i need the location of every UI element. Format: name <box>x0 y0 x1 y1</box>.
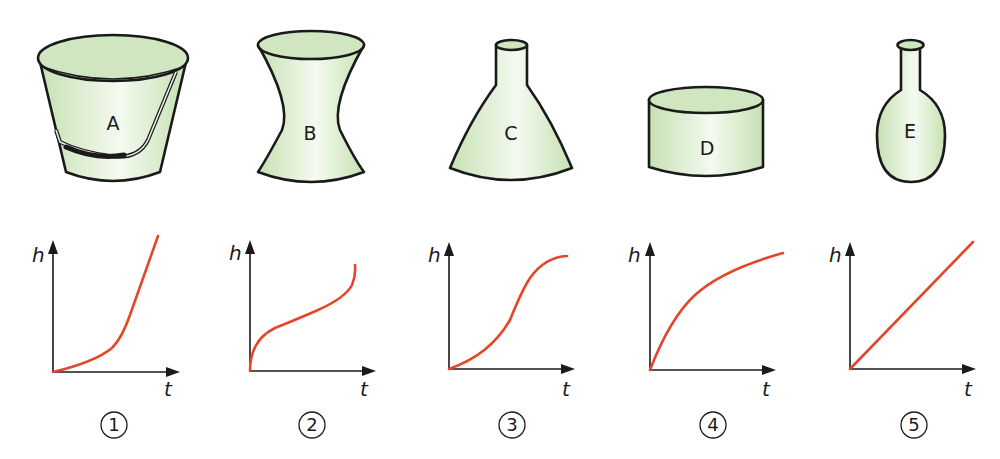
y-axis-arrow-icon <box>845 242 855 256</box>
container-label-a: A <box>107 112 120 134</box>
x-axis-label: t <box>360 377 369 401</box>
y-axis-label: h <box>628 243 641 267</box>
graph-1: h t 1 <box>32 236 180 438</box>
graph-number: 5 <box>908 414 919 435</box>
x-axis-label: t <box>164 377 173 401</box>
x-axis-label: t <box>964 377 973 401</box>
container-b-hourglass: B <box>258 31 364 182</box>
graph-number: 3 <box>506 414 517 435</box>
y-axis-label: h <box>32 243 45 267</box>
graph-3: h t 3 <box>428 242 575 438</box>
x-axis-label: t <box>562 377 571 401</box>
graph-number: 1 <box>108 414 119 435</box>
x-axis-arrow-icon <box>561 364 575 374</box>
graph-number: 2 <box>306 414 317 435</box>
y-axis-label: h <box>428 243 441 267</box>
container-c-conical-flask: C <box>450 40 572 180</box>
x-axis-arrow-icon <box>962 364 976 374</box>
container-label-e: E <box>904 120 916 142</box>
y-axis-arrow-icon <box>444 242 454 256</box>
y-axis-label: h <box>829 243 842 267</box>
graph-4: h t 4 <box>628 242 783 438</box>
container-e-round-flask: E <box>877 40 945 182</box>
y-axis-arrow-icon <box>245 240 255 254</box>
container-a-bucket: A <box>38 35 188 181</box>
container-label-d: D <box>700 137 715 159</box>
y-axis-arrow-icon <box>48 240 58 254</box>
x-axis-label: t <box>762 377 771 401</box>
y-axis-arrow-icon <box>645 242 655 256</box>
y-axis-label: h <box>229 241 242 265</box>
graph-5: h t 5 <box>829 242 976 438</box>
graph-2: h t 2 <box>229 240 376 438</box>
diagram-canvas: A B C D E h t 1 <box>0 0 1000 459</box>
x-axis-arrow-icon <box>362 366 376 376</box>
x-axis-arrow-icon <box>762 365 776 375</box>
container-label-c: C <box>504 122 517 144</box>
x-axis-arrow-icon <box>166 367 180 377</box>
graph-number: 4 <box>707 414 718 435</box>
container-d-cylinder: D <box>649 87 763 176</box>
container-label-b: B <box>303 122 316 144</box>
